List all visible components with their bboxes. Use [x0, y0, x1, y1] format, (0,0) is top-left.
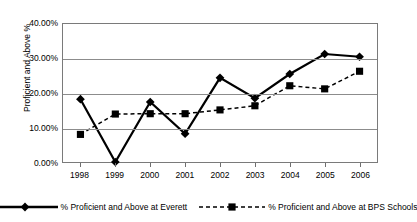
data-point-square	[356, 68, 363, 75]
x-axis-tick-labels: 199819992000200120022003200420052006	[62, 170, 378, 184]
data-point-square	[286, 82, 293, 89]
chart-legend: % Proficient and Above at Everett % Prof…	[0, 196, 409, 218]
legend-marker-diamond-icon	[0, 201, 58, 213]
data-point-diamond	[76, 95, 85, 104]
data-point-square	[182, 110, 189, 117]
x-axis-tick-mark	[360, 163, 361, 167]
x-axis-tick-mark	[150, 163, 151, 167]
data-point-square	[216, 106, 223, 113]
y-axis-tick-label: 10.00%	[16, 124, 58, 133]
x-axis-tick-mark	[255, 163, 256, 167]
x-axis-tick-mark	[80, 163, 81, 167]
x-axis-tick-mark	[290, 163, 291, 167]
x-axis-tick-marks	[62, 163, 378, 169]
y-axis-tick-label: 0.00%	[16, 159, 58, 168]
y-axis-tick-labels: 0.00%10.00%20.00%30.00%40.00%	[16, 12, 58, 164]
y-axis-tick-label: 20.00%	[16, 89, 58, 98]
data-point-diamond	[320, 50, 329, 59]
legend-marker-square-icon	[199, 201, 265, 213]
x-axis-tick-mark	[325, 163, 326, 167]
gridline	[63, 94, 377, 95]
plot-area	[62, 23, 378, 163]
y-axis-tick-label: 40.00%	[16, 19, 58, 28]
x-axis-tick-label: 2006	[337, 170, 383, 181]
x-axis-tick-mark	[115, 163, 116, 167]
data-point-square	[147, 110, 154, 117]
data-point-square	[251, 102, 258, 109]
plot-svg	[63, 24, 377, 162]
y-axis-tick-label: 30.00%	[16, 54, 58, 63]
data-point-square	[77, 131, 84, 138]
legend-entry-everett: % Proficient and Above at Everett	[0, 201, 187, 213]
gridline	[63, 129, 377, 130]
x-axis-tick-mark	[185, 163, 186, 167]
x-axis-tick-mark	[220, 163, 221, 167]
legend-entry-bps: % Proficient and Above at BPS Schools	[199, 201, 417, 213]
legend-label-everett: % Proficient and Above at Everett	[61, 202, 188, 213]
data-point-square	[112, 110, 119, 117]
gridline	[63, 59, 377, 60]
data-point-square	[321, 85, 328, 92]
legend-label-bps: % Proficient and Above at BPS Schools	[268, 202, 417, 213]
